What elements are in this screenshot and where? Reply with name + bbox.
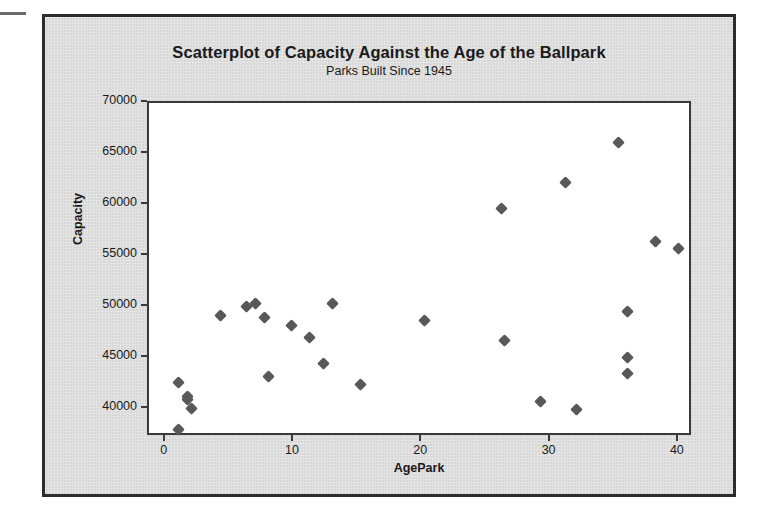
- x-axis-title: AgePark: [147, 461, 691, 475]
- x-axis-tick-label: 30: [529, 443, 569, 457]
- chart-subtitle: Parks Built Since 1945: [45, 63, 733, 80]
- y-axis-tick-label: 60000: [75, 196, 137, 208]
- data-point: [172, 423, 185, 436]
- y-axis-tick-label: 65000: [75, 145, 137, 157]
- title-block: Scatterplot of Capacity Against the Age …: [45, 43, 733, 80]
- data-point: [303, 332, 316, 345]
- page-edge-mark: [0, 12, 26, 15]
- y-axis-tick: [141, 202, 147, 204]
- y-axis-tick: [141, 253, 147, 255]
- x-axis-tick-label: 20: [400, 443, 440, 457]
- data-point: [570, 403, 583, 416]
- y-axis-tick-label-text: 65000: [75, 145, 137, 157]
- data-point: [354, 379, 367, 392]
- y-axis-tick-label: 50000: [75, 298, 137, 310]
- y-axis-tick-label-text: 70000: [75, 94, 137, 106]
- x-axis-tick: [291, 435, 293, 441]
- data-point: [317, 357, 330, 370]
- data-point: [649, 236, 662, 249]
- data-point: [326, 297, 339, 310]
- y-axis-tick-label: 40000: [75, 400, 137, 412]
- y-axis-tick: [141, 304, 147, 306]
- data-point: [621, 351, 634, 364]
- data-point: [560, 176, 573, 189]
- x-axis-tick: [676, 435, 678, 441]
- y-axis-tick-label: 70000: [75, 94, 137, 106]
- y-axis-tick: [141, 100, 147, 102]
- x-axis-tick: [548, 435, 550, 441]
- y-axis-tick-label-text: 40000: [75, 400, 137, 412]
- data-point: [612, 136, 625, 149]
- y-axis-tick-label-text: 50000: [75, 298, 137, 310]
- data-point: [418, 314, 431, 327]
- y-axis-tick: [141, 355, 147, 357]
- data-point: [285, 319, 298, 332]
- x-axis-tick: [419, 435, 421, 441]
- plot-panel: [147, 101, 691, 435]
- y-axis-tick-label-text: 60000: [75, 196, 137, 208]
- chart-title: Scatterplot of Capacity Against the Age …: [45, 43, 733, 62]
- x-axis-tick-label: 40: [657, 443, 697, 457]
- y-axis-tick: [141, 151, 147, 153]
- data-point: [673, 242, 686, 255]
- x-axis-tick: [163, 435, 165, 441]
- x-axis-tick-label: 0: [144, 443, 184, 457]
- data-point: [621, 305, 634, 318]
- y-axis-tick-label-text: 55000: [75, 247, 137, 259]
- data-point: [262, 370, 275, 383]
- data-point: [621, 367, 634, 380]
- y-axis-tick-label: 55000: [75, 247, 137, 259]
- graph-window: Scatterplot of Capacity Against the Age …: [42, 14, 736, 497]
- y-axis-tick-label: 45000: [75, 349, 137, 361]
- x-axis-tick-label: 10: [272, 443, 312, 457]
- data-point: [258, 311, 271, 324]
- data-point: [534, 395, 547, 408]
- data-point: [172, 376, 185, 389]
- data-point: [214, 309, 227, 322]
- data-point: [495, 202, 508, 215]
- data-point: [498, 335, 511, 348]
- y-axis-tick-label-text: 45000: [75, 349, 137, 361]
- y-axis-tick: [141, 406, 147, 408]
